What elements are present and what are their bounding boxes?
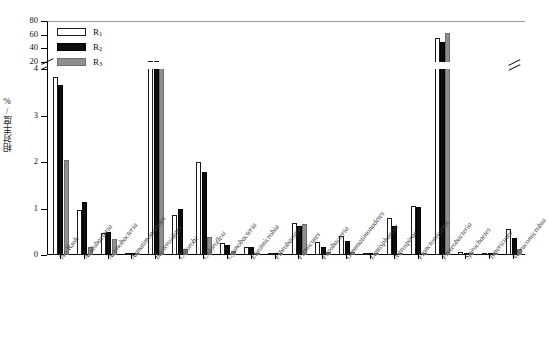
y-tick-label-2: 2	[16, 157, 38, 166]
x-tick	[418, 255, 419, 259]
y-tick-60	[41, 35, 47, 36]
legend-item-r1: R1	[57, 25, 135, 39]
legend-swatch-r1	[57, 28, 86, 36]
x-tick	[322, 255, 323, 259]
y-tick-3	[41, 116, 47, 117]
legend-label-r2: R2	[93, 43, 102, 52]
y-tick-label-3: 3	[16, 111, 38, 120]
legend-swatch-r2	[57, 43, 86, 51]
x-tick	[84, 255, 85, 259]
y-tick-label-40: 40	[16, 43, 38, 52]
legend-item-r2: R2	[57, 40, 135, 54]
x-tick	[298, 255, 299, 259]
legend-item-r3: R3	[57, 55, 135, 69]
x-tick	[203, 255, 204, 259]
x-tick	[108, 255, 109, 259]
x-tick	[489, 255, 490, 259]
legend: R1R2R3	[57, 25, 135, 70]
x-tick	[60, 255, 61, 259]
legend-label-r1: R1	[93, 28, 102, 37]
bar	[58, 85, 63, 255]
x-tick	[465, 255, 466, 259]
y-axis-title: 相对丰度/%	[2, 96, 20, 152]
y-tick-40	[41, 48, 47, 49]
bar	[53, 77, 58, 255]
y-tick-label-80: 80	[16, 16, 38, 25]
x-tick	[251, 255, 252, 259]
y-tick-label-20: 20	[16, 57, 38, 66]
bar-upper-segment	[435, 38, 440, 63]
y-tick-80	[41, 21, 47, 22]
x-tick	[394, 255, 395, 259]
bar-upper-segment	[445, 33, 450, 63]
x-tick	[513, 255, 514, 259]
y-tick-2	[41, 162, 47, 163]
x-tick	[275, 255, 276, 259]
bar-upper-segment	[440, 42, 445, 63]
y-tick-label-60: 60	[16, 30, 38, 39]
x-tick	[346, 255, 347, 259]
x-tick	[442, 255, 443, 259]
bar	[77, 210, 82, 255]
x-axis-labels: No RankAcidobacteriaActinobacteriaArmati…	[48, 256, 525, 336]
x-tick	[370, 255, 371, 259]
bar	[202, 172, 207, 255]
y-tick-label-0: 0	[16, 250, 38, 259]
y-tick-label-1: 1	[16, 204, 38, 213]
x-tick	[179, 255, 180, 259]
y-tick-1	[41, 209, 47, 210]
y-tick-0	[41, 255, 47, 256]
x-tick	[155, 255, 156, 259]
x-tick	[131, 255, 132, 259]
legend-label-r3: R3	[93, 58, 102, 67]
x-tick	[227, 255, 228, 259]
legend-swatch-r3	[57, 58, 86, 66]
